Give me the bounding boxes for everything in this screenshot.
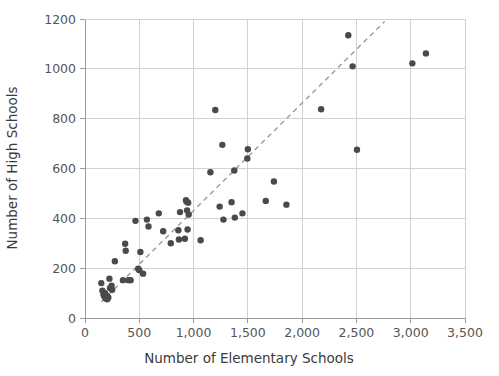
data-point: [197, 237, 203, 243]
data-point: [423, 50, 429, 56]
y-tick-label: 1200: [44, 12, 76, 27]
data-point: [409, 60, 415, 66]
data-point: [140, 270, 146, 276]
data-point: [105, 294, 111, 300]
y-tick-label: 200: [52, 261, 76, 276]
data-point: [144, 216, 150, 222]
data-point: [228, 199, 234, 205]
data-point: [132, 218, 138, 224]
data-point: [244, 155, 250, 161]
data-point: [109, 287, 115, 293]
data-point: [127, 277, 133, 283]
data-point: [156, 210, 162, 216]
data-point: [263, 198, 269, 204]
data-point: [177, 209, 183, 215]
x-axis-title: Number of Elementary Schools: [144, 350, 354, 366]
data-point: [216, 203, 222, 209]
data-point: [106, 275, 112, 281]
data-point: [354, 147, 360, 153]
data-point: [349, 63, 355, 69]
x-tick-label: 3,000: [393, 325, 429, 340]
x-tick-label: 3,500: [447, 325, 483, 340]
data-point: [212, 107, 218, 113]
data-point: [185, 199, 191, 205]
y-tick-label: 1000: [44, 61, 76, 76]
data-point: [168, 240, 174, 246]
data-point: [145, 223, 151, 229]
data-point: [137, 249, 143, 255]
y-tick-label: 0: [68, 311, 76, 326]
data-point: [283, 201, 289, 207]
data-point: [112, 258, 118, 264]
x-tick-label: 500: [127, 325, 151, 340]
x-tick-label: 2,000: [284, 325, 320, 340]
data-point: [123, 248, 129, 254]
data-point: [219, 142, 225, 148]
data-point: [184, 226, 190, 232]
data-point: [318, 106, 324, 112]
data-point: [160, 228, 166, 234]
data-point: [239, 210, 245, 216]
y-tick-label: 800: [52, 111, 76, 126]
x-tick-label: 0: [81, 325, 89, 340]
x-tick-label: 1,500: [230, 325, 266, 340]
data-point: [182, 236, 188, 242]
y-tick-label: 600: [52, 161, 76, 176]
scatter-plot-figure: 05001,0001,5002,0002,5003,0003,500 02004…: [0, 0, 499, 376]
data-point: [122, 241, 128, 247]
data-point: [98, 280, 104, 286]
data-point: [232, 214, 238, 220]
data-point: [175, 227, 181, 233]
x-tick-label: 1,000: [176, 325, 212, 340]
data-point: [231, 167, 237, 173]
data-point: [271, 178, 277, 184]
x-tick-label: 2,500: [339, 325, 375, 340]
data-point: [185, 211, 191, 217]
data-point: [176, 236, 182, 242]
data-point: [245, 146, 251, 152]
data-point: [345, 32, 351, 38]
data-point: [220, 216, 226, 222]
y-axis-title: Number of High Schools: [4, 87, 20, 250]
data-point: [207, 169, 213, 175]
y-tick-label: 400: [52, 211, 76, 226]
